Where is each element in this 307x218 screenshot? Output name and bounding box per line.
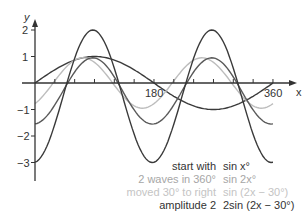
legend-formula: sin 2x°: [223, 173, 256, 185]
legend-desc: start with: [172, 160, 216, 172]
y-tick-label: −2: [17, 130, 30, 142]
legend-desc: moved 30° to right: [127, 186, 216, 198]
x-tick-label: 180: [145, 87, 163, 99]
legend-formula: 2sin (2x − 30°): [223, 199, 294, 211]
legend: start withsin x°2 waves in 360°sin 2x°mo…: [127, 160, 295, 211]
y-axis-arrow-icon: [32, 19, 38, 27]
legend-formula: sin x°: [223, 160, 250, 172]
chart: 18036021−1−2−3 y x start withsin x°2 wav…: [0, 0, 307, 218]
y-tick-label: −3: [17, 157, 30, 169]
legend-desc: amplitude 2: [159, 199, 216, 211]
legend-formula: sin (2x − 30°): [223, 186, 288, 198]
x-tick-label: 360: [264, 87, 282, 99]
y-axis-label: y: [23, 11, 31, 23]
legend-desc: 2 waves in 360°: [138, 173, 216, 185]
y-tick-label: −1: [17, 104, 30, 116]
x-axis-label: x: [296, 86, 302, 98]
y-tick-label: 1: [22, 51, 28, 63]
y-tick-label: 2: [22, 24, 28, 36]
